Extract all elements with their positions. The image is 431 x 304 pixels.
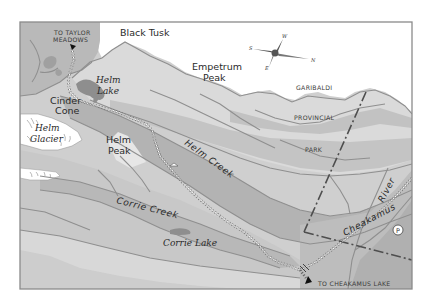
label-to-taylor-meadows-2: MEADOWS (53, 36, 88, 43)
label-helm-glacier: Helm (34, 123, 60, 133)
parking-icon: P (393, 225, 403, 235)
label-to-taylor-meadows: TO TAYLOR (53, 29, 91, 36)
label-empetrum-peak-2: Peak (203, 72, 226, 83)
label-park: PARK (305, 146, 323, 153)
label-black-tusk: Black Tusk (120, 27, 170, 38)
svg-text:W: W (282, 33, 288, 39)
label-garibaldi: GARIBALDI (296, 84, 332, 91)
label-empetrum-peak: Empetrum (192, 61, 242, 72)
svg-text:E: E (264, 65, 269, 71)
label-helm-glacier-2: Glacier (30, 134, 64, 144)
trail-map: P S N W E TO TAYLOR MEADOWS Black Tusk E… (0, 0, 431, 304)
label-cinder-cone-2: Cone (55, 105, 79, 116)
label-helm-peak-2: Peak (108, 145, 131, 156)
label-helm-lake-2: Lake (96, 86, 119, 96)
svg-text:N: N (310, 57, 316, 63)
label-corrie-lake: Corrie Lake (163, 238, 217, 248)
svg-text:S: S (249, 45, 253, 51)
label-to-cheakamus-lake: TO CHEAKAMUS LAKE (317, 280, 391, 287)
svg-text:P: P (396, 227, 400, 235)
label-helm-peak: Helm (106, 134, 131, 145)
label-helm-lake: Helm (95, 75, 121, 85)
label-provincial: PROVINCIAL (294, 114, 335, 121)
